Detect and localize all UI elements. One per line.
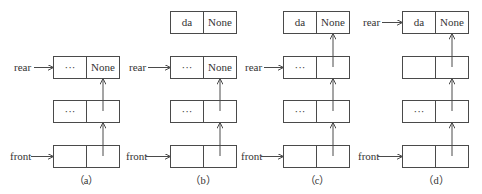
node-front: [403, 146, 469, 168]
node-middle: ···: [171, 101, 237, 123]
front-pointer-label: front: [358, 150, 379, 162]
rear-pointer-label: rear: [14, 61, 31, 73]
node-front: [54, 146, 120, 168]
node-data: ···: [182, 105, 193, 117]
front-pointer-label: front: [10, 150, 31, 162]
node-next: None: [91, 61, 115, 73]
panel-b: da None ··· None ··· rear front （b）: [126, 12, 237, 187]
node-middle: ···: [403, 101, 469, 123]
panel-caption: （a）: [74, 175, 99, 186]
node-middle: [403, 57, 469, 79]
node-rear: ··· None: [54, 57, 120, 79]
panel-c: da None ··· ··· rear front （c）: [241, 12, 350, 187]
front-pointer-label: front: [126, 150, 147, 162]
node-next: None: [208, 61, 232, 73]
node-next: None: [208, 16, 232, 28]
node-new: da None: [171, 12, 237, 34]
node-front: [284, 146, 350, 168]
node-data: da: [414, 16, 425, 28]
panel-a: ··· None ··· rear front （a）: [10, 57, 120, 187]
node-data: ···: [65, 105, 76, 117]
node-data: ···: [414, 105, 425, 117]
rear-pointer-label: rear: [245, 61, 262, 73]
panel-caption: （d）: [423, 175, 448, 186]
node-data: ···: [182, 61, 193, 73]
node-new: da None: [284, 12, 350, 34]
linked-queue-enqueue-diagram: ··· None ··· rear front （a）: [0, 0, 482, 194]
node-front: [171, 146, 237, 168]
node-data: da: [295, 16, 306, 28]
panel-caption: （b）: [190, 175, 215, 186]
node-next: None: [321, 16, 345, 28]
node-data: ···: [295, 105, 306, 117]
node-rear: da None: [403, 12, 469, 34]
node-middle: ···: [284, 101, 350, 123]
rear-pointer-label: rear: [363, 16, 380, 28]
node-rear: ··· None: [171, 57, 237, 79]
rear-pointer-label: rear: [129, 61, 146, 73]
node-next: None: [440, 16, 464, 28]
node-rear: ···: [284, 57, 350, 79]
panel-caption: （c）: [305, 175, 330, 186]
front-pointer-label: front: [241, 150, 262, 162]
node-data: ···: [295, 61, 306, 73]
node-data: ···: [65, 61, 76, 73]
node-middle: ···: [54, 101, 120, 123]
node-data: da: [182, 16, 193, 28]
panel-d: da None ··· rear front （d）: [358, 12, 469, 187]
